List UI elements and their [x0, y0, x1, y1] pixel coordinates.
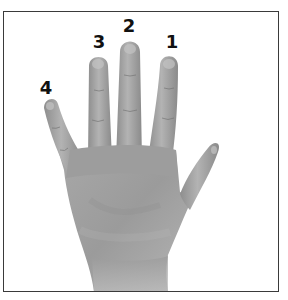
finger-label-little: 4	[40, 79, 53, 97]
finger-ring	[88, 57, 112, 160]
hand-illustration	[0, 0, 288, 300]
knuckles	[66, 145, 178, 178]
finger-label-ring: 3	[93, 33, 106, 51]
finger-index	[148, 56, 178, 160]
finger-middle	[116, 42, 142, 161]
wrist	[92, 256, 168, 292]
finger-label-index: 1	[166, 33, 179, 51]
finger-label-middle: 2	[123, 17, 136, 35]
